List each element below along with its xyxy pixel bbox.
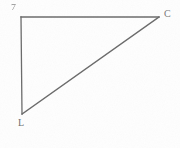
- triangle-figure: [0, 0, 180, 148]
- diagram-background: [0, 0, 180, 148]
- vertex-label-right: C: [164, 9, 171, 19]
- vertex-label-apex: 7: [11, 3, 16, 12]
- vertex-label-bottom: L: [18, 118, 24, 128]
- triangle-diagram-canvas: 7 C L: [0, 0, 180, 148]
